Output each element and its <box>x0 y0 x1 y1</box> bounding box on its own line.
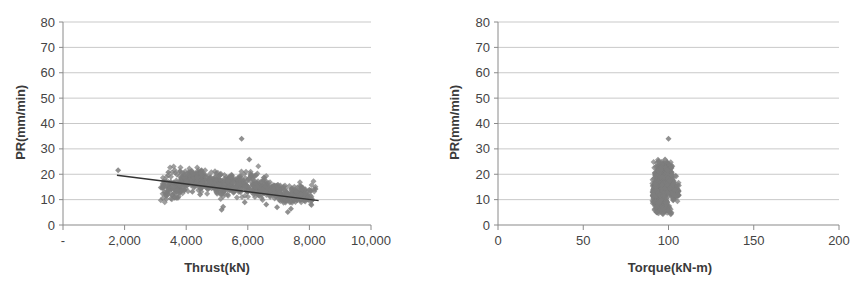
x-axis-title-torque-chart: Torque(kN-m) <box>500 260 840 275</box>
y-tick-label: 50 <box>41 91 55 106</box>
y-axis-title-torque-chart: PR(mm/min) <box>447 73 462 173</box>
y-tick-label: 60 <box>476 65 490 80</box>
torque-vs-pr-chart: 01020304050607080050100150200 <box>431 0 862 300</box>
thrust-vs-pr-chart: 01020304050607080-2,0004,0006,0008,00010… <box>0 0 431 300</box>
y-tick-label: 10 <box>41 192 55 207</box>
y-tick-label: 70 <box>476 40 490 55</box>
x-axis-ticks: -2,0004,0006,0008,00010,000 <box>61 225 391 248</box>
data-point <box>263 201 269 207</box>
x-tick-label: 200 <box>828 233 850 248</box>
x-axis-ticks: 050100150200 <box>494 225 849 248</box>
scatter-points <box>115 136 318 215</box>
y-tick-label: 20 <box>476 167 490 182</box>
y-tick-label: 80 <box>476 15 490 30</box>
scatter-points <box>649 136 681 217</box>
chart-panel-thrust: 01020304050607080-2,0004,0006,0008,00010… <box>0 0 431 300</box>
y-tick-label: 20 <box>41 167 55 182</box>
y-tick-label: 60 <box>41 65 55 80</box>
y-tick-label: 30 <box>476 141 490 156</box>
data-point <box>255 163 261 169</box>
scatter-charts-row: 01020304050607080-2,0004,0006,0008,00010… <box>0 0 862 300</box>
y-tick-label: 80 <box>41 15 55 30</box>
y-axis-title-thrust-chart: PR(mm/min) <box>13 73 28 173</box>
y-tick-label: 70 <box>41 40 55 55</box>
x-axis-title-thrust-chart: Thrust(kN) <box>63 260 371 275</box>
y-tick-label: 0 <box>48 218 55 233</box>
x-tick-label: 6,000 <box>232 233 265 248</box>
x-tick-label: 0 <box>494 233 501 248</box>
data-point <box>666 136 672 142</box>
data-point <box>246 157 252 163</box>
y-tick-label: 10 <box>476 192 490 207</box>
data-point <box>115 167 121 173</box>
x-tick-label: - <box>61 233 65 248</box>
data-point <box>274 204 280 210</box>
y-tick-label: 0 <box>483 218 490 233</box>
data-point <box>204 191 210 197</box>
y-tick-label: 40 <box>476 116 490 131</box>
x-tick-label: 2,000 <box>108 233 141 248</box>
data-point <box>297 179 303 185</box>
chart-panel-torque: 01020304050607080050100150200 PR(mm/min)… <box>431 0 862 300</box>
x-tick-label: 150 <box>743 233 765 248</box>
x-tick-label: 10,000 <box>351 233 391 248</box>
y-axis-ticks: 01020304050607080 <box>476 15 498 233</box>
x-tick-label: 8,000 <box>293 233 326 248</box>
y-tick-label: 40 <box>41 116 55 131</box>
data-point <box>239 136 245 142</box>
y-tick-label: 50 <box>476 91 490 106</box>
x-tick-label: 100 <box>658 233 680 248</box>
x-tick-label: 4,000 <box>170 233 203 248</box>
x-tick-label: 50 <box>576 233 590 248</box>
y-axis-ticks: 01020304050607080 <box>41 15 63 233</box>
y-tick-label: 30 <box>41 141 55 156</box>
